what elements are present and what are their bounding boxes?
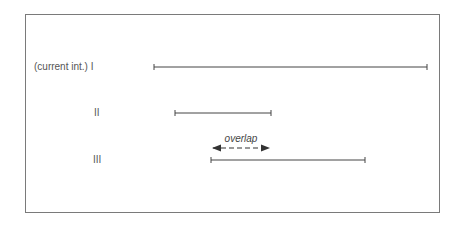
interval-III	[211, 157, 365, 163]
interval-II	[175, 110, 271, 116]
interval-I	[154, 64, 427, 70]
interval-diagram	[0, 0, 463, 227]
